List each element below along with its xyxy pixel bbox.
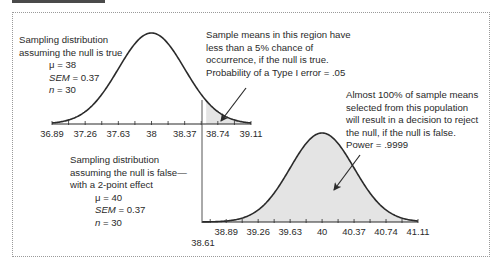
alpha-note-line: occurrence, if the null is true. <box>206 54 351 67</box>
power-note-line: Almost 100% of sample means <box>346 89 478 102</box>
shaded-region <box>206 101 251 124</box>
x-tick-label: 38.74 <box>206 128 229 139</box>
null-false-sem: SEM = 0.37 <box>95 204 187 217</box>
alpha-note-line: Sample means in this region have <box>206 29 351 42</box>
null-false-n: n = 30 <box>95 217 187 230</box>
power-note-line: the null, if the null is false. <box>346 127 478 140</box>
alpha-arrow <box>221 88 246 121</box>
x-tick-label: 38 <box>146 128 156 139</box>
null-true-sem: SEM = 0.37 <box>49 72 122 85</box>
null-false-mu: μ = 40 <box>95 192 187 205</box>
power-note-line: selected from this population <box>346 102 478 115</box>
critical-value-label: 38.61 <box>191 237 214 248</box>
x-tick-label: 40 <box>317 226 327 237</box>
x-tick-label: 37.26 <box>73 128 96 139</box>
alpha-annotation: Sample means in this region have less th… <box>206 29 351 79</box>
x-tick-label: 40.37 <box>342 226 365 237</box>
x-tick-label: 39.63 <box>278 226 301 237</box>
null-false-label: Sampling distribution assuming the null … <box>70 154 187 230</box>
x-tick-label: 40.74 <box>374 226 397 237</box>
x-tick-label: 36.89 <box>40 128 63 139</box>
power-note-line: will result in a decision to reject <box>346 114 478 127</box>
x-tick-label: 38.89 <box>214 226 237 237</box>
power-annotation: Almost 100% of sample means selected fro… <box>346 89 478 152</box>
null-true-title-2: assuming the null is true <box>19 47 122 60</box>
null-true-mu: μ = 38 <box>49 59 122 72</box>
null-false-title-1: Sampling distribution <box>70 154 187 167</box>
x-tick-label: 38.37 <box>173 128 196 139</box>
null-false-title-2: assuming the null is false— <box>70 167 187 180</box>
x-tick-label: 41.11 <box>407 226 430 237</box>
power-note-line: Power = .9999 <box>346 139 478 152</box>
x-tick-label: 39.26 <box>246 226 269 237</box>
null-true-title-1: Sampling distribution <box>19 34 122 47</box>
x-tick-label: 37.63 <box>107 128 130 139</box>
null-true-label: Sampling distribution assuming the null … <box>19 34 122 97</box>
alpha-note-line: less than a 5% chance of <box>206 42 351 55</box>
x-tick-label: 39.11 <box>240 128 263 139</box>
null-false-title-3: with a 2-point effect <box>70 179 187 192</box>
alpha-note-line: Probability of a Type I error = .05 <box>206 67 351 80</box>
null-true-n: n = 30 <box>49 84 122 97</box>
